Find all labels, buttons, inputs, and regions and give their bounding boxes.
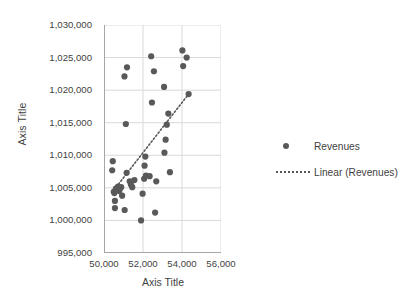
data-point	[141, 163, 147, 169]
data-point	[110, 158, 116, 164]
y-axis-tick-labels: 995,0001,000,0001,005,0001,010,0001,015,…	[24, 20, 92, 254]
x-axis-tick-labels: 50,00052,00054,00056,000	[0, 258, 405, 272]
data-point	[129, 184, 135, 190]
legend-marker-icon	[283, 143, 289, 149]
y-axis-tick-label: 1,020,000	[24, 85, 92, 95]
y-axis-tick-label: 1,010,000	[24, 150, 92, 160]
x-axis-title: Axis Title	[104, 276, 222, 288]
data-point	[149, 99, 155, 105]
data-points-revenues	[109, 47, 192, 223]
legend-item-label: Linear (Revenues)	[310, 167, 398, 178]
data-point	[112, 205, 118, 211]
data-point	[138, 217, 144, 223]
data-point	[112, 198, 118, 204]
data-point	[186, 91, 192, 97]
axis-lines	[104, 25, 221, 253]
data-point	[179, 47, 185, 53]
data-point	[118, 184, 124, 190]
data-point	[152, 210, 158, 216]
data-point	[124, 64, 130, 70]
data-point	[151, 68, 157, 74]
y-axis-tick-label: 1,025,000	[24, 53, 92, 63]
y-axis-tick-label: 1,015,000	[24, 118, 92, 128]
legend-item[interactable]: Linear (Revenues)	[276, 159, 402, 185]
data-point	[123, 121, 129, 127]
scatter-chart: Axis Title 995,0001,000,0001,005,0001,01…	[0, 0, 405, 306]
data-point	[165, 110, 171, 116]
data-point	[109, 167, 115, 173]
data-point	[167, 169, 173, 175]
data-point	[184, 54, 190, 60]
data-point	[163, 137, 169, 143]
data-point	[119, 193, 125, 199]
x-axis-tick-label: 56,000	[191, 258, 251, 269]
legend-item[interactable]: Revenues	[276, 133, 402, 159]
legend-item-label: Revenues	[310, 141, 360, 152]
data-point	[121, 73, 127, 79]
plot-svg	[104, 25, 221, 253]
gridlines	[104, 25, 221, 253]
legend-dotted-line-icon	[276, 171, 310, 173]
y-axis-tick-label: 1,005,000	[24, 183, 92, 193]
data-point	[161, 150, 167, 156]
data-point	[124, 170, 130, 176]
plot-area	[104, 25, 221, 253]
y-axis-tick-label: 1,030,000	[24, 20, 92, 30]
data-point	[148, 53, 154, 59]
chart-legend: RevenuesLinear (Revenues)	[276, 133, 402, 185]
data-point	[142, 153, 148, 159]
data-point	[153, 178, 159, 184]
data-point	[140, 191, 146, 197]
data-point	[164, 122, 170, 128]
data-point	[161, 84, 167, 90]
data-point	[147, 173, 153, 179]
data-point	[131, 177, 137, 183]
data-point	[180, 63, 186, 69]
y-axis-tick-label: 1,000,000	[24, 215, 92, 225]
y-axis-tick-label: 995,000	[24, 248, 92, 258]
data-point	[122, 207, 128, 213]
